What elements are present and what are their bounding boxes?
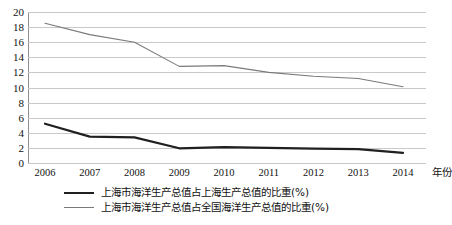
series-line-1 [45,124,403,153]
y-axis-tick-label: 16 [13,37,24,48]
x-axis-title: 年份 [432,168,452,179]
x-axis-tick-label: 2012 [303,168,324,179]
series-lines [28,12,426,163]
y-axis-tick-label: 4 [19,127,25,138]
y-axis-tick-label: 20 [13,7,24,18]
gridline [28,163,426,164]
y-axis-tick-label: 10 [13,82,24,93]
y-axis-tick-label: 18 [13,22,24,33]
legend: 上海市海洋生产总值占上海生产总值的比重(%) 上海市海洋生产总值占全国海洋生产总… [64,185,404,215]
x-axis-tick-label: 2009 [169,168,190,179]
legend-label: 上海市海洋生产总值占全国海洋生产总值的比重(%) [101,202,329,213]
x-axis-tick-label: 2010 [214,168,235,179]
series-line-2 [45,23,403,86]
x-axis-tick-label: 2013 [348,168,369,179]
y-axis-tick-label: 12 [13,67,24,78]
y-axis-tick-label: 6 [19,112,25,123]
y-axis-tick-label: 2 [19,142,25,153]
x-axis-tick-label: 2008 [124,168,145,179]
legend-swatch-icon [64,192,94,194]
plot-area: 20181614121086420 2006200720082009201020… [28,12,426,163]
y-axis-tick-label: 8 [19,97,25,108]
legend-swatch-icon [64,207,94,208]
legend-item-secondary: 上海市海洋生产总值占全国海洋生产总值的比重(%) [64,200,404,215]
legend-item-primary: 上海市海洋生产总值占上海生产总值的比重(%) [64,185,404,200]
legend-label: 上海市海洋生产总值占上海生产总值的比重(%) [101,187,309,198]
x-axis-tick-label: 2011 [258,168,279,179]
x-axis-tick-label: 2014 [393,168,414,179]
x-axis-tick-label: 2007 [79,168,100,179]
y-axis-tick-label: 0 [19,158,25,169]
x-axis-tick-label: 2006 [35,168,56,179]
y-axis-tick-label: 14 [13,52,24,63]
